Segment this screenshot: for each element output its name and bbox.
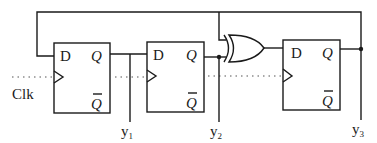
junction-dot <box>359 47 363 51</box>
clock-label: Clk <box>12 86 34 102</box>
output-y1-label: y1 <box>121 123 133 141</box>
ff3-d-label: D <box>291 45 302 61</box>
ff2-qbar-label: Q <box>186 95 197 111</box>
wire-y1 <box>110 54 147 122</box>
ff1-qbar-label: Q <box>91 96 102 112</box>
ff3-qbar-label: Q <box>322 93 333 109</box>
ff2-q-label: Q <box>186 47 197 63</box>
flip-flop-1: D Q Q <box>54 43 110 113</box>
wire-y2 <box>204 55 226 122</box>
circuit-diagram: Clk D Q Q y1 D Q Q y2 D <box>0 0 377 143</box>
ff1-q-label: Q <box>91 48 102 64</box>
flip-flop-3: D Q Q <box>283 40 340 110</box>
junction-dot <box>217 55 221 59</box>
ff1-d-label: D <box>60 48 71 64</box>
xor-gate <box>224 35 283 62</box>
output-y2-label: y2 <box>210 123 222 141</box>
ff3-q-label: Q <box>322 45 333 61</box>
wire-y3 <box>340 47 363 120</box>
flip-flop-2: D Q Q <box>147 42 204 112</box>
ff2-d-label: D <box>153 47 164 63</box>
output-y3-label: y3 <box>352 121 365 139</box>
